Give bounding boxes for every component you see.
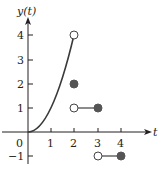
filled-point-3-1 [94,104,102,112]
parabola-curve [28,35,74,132]
open-point-2-4 [70,31,78,39]
filled-point-2-2 [70,80,78,88]
x-tick-label-3: 3 [94,137,101,150]
open-point-2-1 [70,104,78,112]
open-point-3-m1 [94,152,102,160]
y-tick-label-2: 2 [17,78,24,91]
y-tick-label-minus1: −1 [8,150,24,163]
chart: y(t) t 0 1 2 3 4 4 3 2 1 −1 [0,0,166,170]
x-tick-label-4: 4 [117,137,124,150]
x-tick-label-1: 1 [47,137,54,150]
filled-point-4-m1 [117,152,125,160]
y-tick-label-1: 1 [17,102,24,115]
y-ticks [28,35,33,156]
y-tick-label-3: 3 [17,54,24,67]
x-ticks [51,128,121,132]
origin-label: 0 [16,137,23,150]
x-axis-label: t [153,126,158,139]
y-tick-label-4: 4 [17,29,24,42]
y-axis-label: y(t) [16,5,36,18]
x-tick-label-2: 2 [70,137,77,150]
